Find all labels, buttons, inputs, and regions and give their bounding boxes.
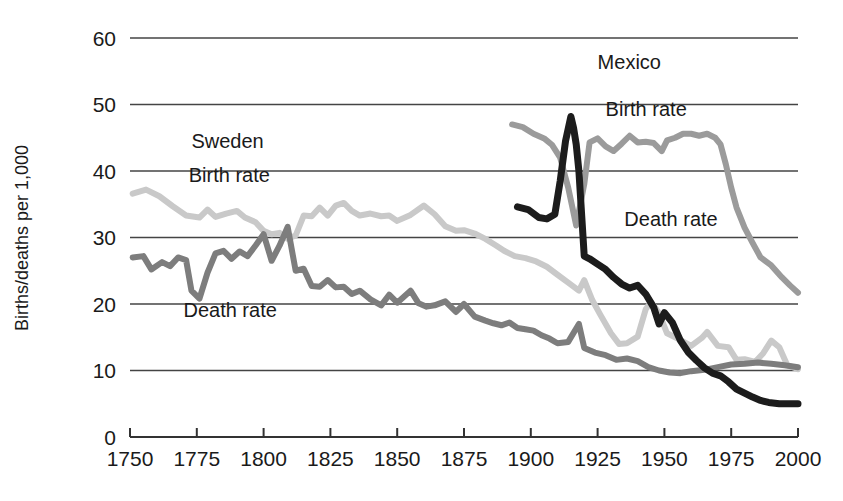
x-tick-label-1825: 1825 bbox=[307, 447, 354, 470]
annotation-mexico-3: Mexico bbox=[598, 51, 661, 73]
annotation-birth-rate-4: Birth rate bbox=[606, 98, 687, 120]
x-tick-labels-group: 1750177518001825185018751900192519501975… bbox=[107, 447, 822, 470]
annotation-death-rate-2: Death rate bbox=[183, 299, 276, 321]
annotation-sweden-0: Sweden bbox=[191, 130, 263, 152]
x-tick-label-1950: 1950 bbox=[641, 447, 688, 470]
annotation-birth-rate-1: Birth rate bbox=[189, 164, 270, 186]
x-tick-label-1900: 1900 bbox=[507, 447, 554, 470]
series-annotations-group: SwedenBirth rateDeath rateMexicoBirth ra… bbox=[183, 51, 717, 321]
x-tick-label-1800: 1800 bbox=[240, 447, 287, 470]
y-tick-label-20: 20 bbox=[93, 293, 116, 316]
y-tick-labels-group: 0102030405060 bbox=[93, 27, 116, 449]
chart-container: Births/deaths per 1,000 0102030405060 17… bbox=[0, 0, 843, 501]
y-tick-label-50: 50 bbox=[93, 93, 116, 116]
x-tick-label-1875: 1875 bbox=[441, 447, 488, 470]
data-series-group bbox=[133, 116, 798, 403]
x-tick-label-1925: 1925 bbox=[574, 447, 621, 470]
x-tick-label-1775: 1775 bbox=[173, 447, 220, 470]
x-tick-label-2000: 2000 bbox=[775, 447, 822, 470]
y-tick-label-10: 10 bbox=[93, 359, 116, 382]
x-tick-label-1850: 1850 bbox=[374, 447, 421, 470]
y-axis-title: Births/deaths per 1,000 bbox=[12, 145, 32, 331]
x-tick-marks-group bbox=[130, 428, 798, 437]
x-tick-label-1975: 1975 bbox=[708, 447, 755, 470]
y-tick-label-30: 30 bbox=[93, 226, 116, 249]
y-tick-label-0: 0 bbox=[104, 426, 116, 449]
y-tick-label-40: 40 bbox=[93, 160, 116, 183]
annotation-death-rate-5: Death rate bbox=[624, 208, 717, 230]
x-tick-label-1750: 1750 bbox=[107, 447, 154, 470]
gridlines-group bbox=[130, 38, 798, 437]
demographic-transition-line-chart: Births/deaths per 1,000 0102030405060 17… bbox=[0, 0, 843, 501]
y-tick-label-60: 60 bbox=[93, 27, 116, 50]
